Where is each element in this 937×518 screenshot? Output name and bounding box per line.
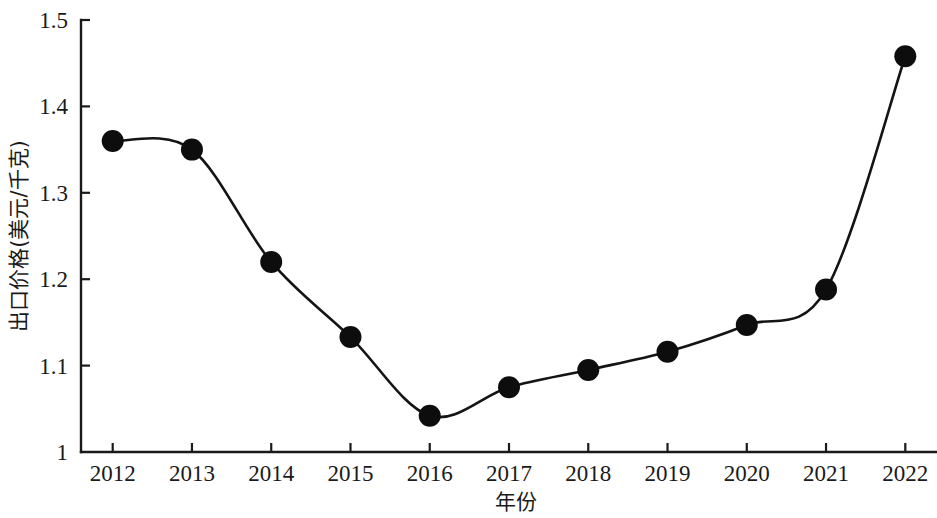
data-point-marker <box>657 341 679 363</box>
data-point-marker <box>736 314 758 336</box>
y-axis-tick-label: 1.3 <box>39 181 68 206</box>
x-axis-tick-labels: 2012201320142015201620172018201920202021… <box>90 461 929 486</box>
x-axis-tick-label: 2019 <box>645 461 691 486</box>
y-axis-tick-label: 1.2 <box>39 267 68 292</box>
data-point-marker <box>577 359 599 381</box>
x-axis-tick-label: 2014 <box>248 461 295 486</box>
y-axis-title: 出口价格(美元/千克) <box>7 140 31 331</box>
x-axis-tick-label: 2021 <box>803 461 849 486</box>
y-axis-tick-label: 1.4 <box>39 94 68 119</box>
data-point-marker <box>181 139 203 161</box>
chart-plot-area: 1.51.41.31.21.11 20122013201420152016201… <box>0 0 937 518</box>
x-axis-tick-label: 2016 <box>407 461 453 486</box>
x-axis-title: 年份 <box>495 490 537 514</box>
x-axis-tick-label: 2022 <box>882 461 928 486</box>
x-axis-tick-label: 2017 <box>486 461 532 486</box>
x-axis-tick-label: 2015 <box>327 461 373 486</box>
y-axis-tick-label: 1 <box>57 440 69 465</box>
x-axis-tick-label: 2020 <box>724 461 770 486</box>
data-point-marker <box>102 130 124 152</box>
y-axis-tick-group <box>81 20 90 366</box>
x-axis-tick-label: 2013 <box>169 461 215 486</box>
x-axis-tick-label: 2018 <box>565 461 611 486</box>
y-axis-tick-label: 1.1 <box>39 354 68 379</box>
data-point-marker <box>419 405 441 427</box>
y-axis-tick-labels: 1.51.41.31.21.11 <box>39 8 68 465</box>
data-point-marker <box>894 45 916 67</box>
series-line-export-price <box>113 56 906 417</box>
series-markers-export-price <box>102 45 917 426</box>
data-point-marker <box>260 251 282 273</box>
line-chart-figure: 1.51.41.31.21.11 20122013201420152016201… <box>0 0 937 518</box>
data-point-marker <box>498 376 520 398</box>
y-axis-tick-label: 1.5 <box>39 8 68 33</box>
data-point-marker <box>339 326 361 348</box>
x-axis-tick-group <box>113 443 906 452</box>
data-point-marker <box>815 279 837 301</box>
x-axis-tick-label: 2012 <box>90 461 136 486</box>
